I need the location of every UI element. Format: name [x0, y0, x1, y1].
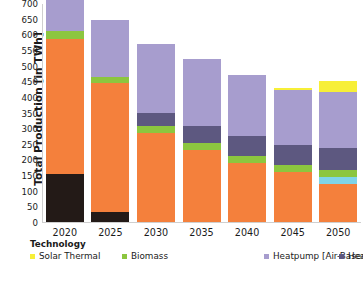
y-axis-tick-label: 50	[4, 202, 38, 212]
bar-segment[interactable]	[183, 126, 221, 143]
bar-segment[interactable]	[228, 156, 266, 163]
stacked-bar[interactable]	[91, 20, 129, 222]
bar-segment[interactable]	[91, 77, 129, 84]
legend-swatch-icon	[339, 254, 344, 259]
bar-segment[interactable]	[274, 172, 312, 222]
x-axis-tick-label: 2020	[53, 227, 77, 238]
legend-item[interactable]: Solar Thermal	[30, 252, 122, 261]
y-axis-tick-label: 450	[4, 77, 38, 87]
bar-segment[interactable]	[46, 0, 84, 31]
y-axis-tick-label: 500	[4, 62, 38, 72]
bar-segment[interactable]	[228, 136, 266, 155]
bar-segment[interactable]	[319, 184, 357, 222]
legend-swatch-icon	[264, 254, 269, 259]
legend-swatch-icon	[122, 254, 127, 259]
bar-segment[interactable]	[228, 75, 266, 136]
y-axis-tick-label: 300	[4, 124, 38, 134]
bar-segment[interactable]	[137, 113, 175, 126]
legend-item-label: Solar Thermal	[39, 252, 100, 261]
y-axis-tick-label: 600	[4, 30, 38, 40]
bar-segment[interactable]	[46, 31, 84, 39]
bar-segment[interactable]	[91, 20, 129, 76]
bar-segment[interactable]	[319, 92, 357, 148]
x-axis-tick-label: 2045	[280, 227, 304, 238]
bar-segment[interactable]	[319, 170, 357, 177]
x-axis-tick-label: 2050	[326, 227, 350, 238]
y-axis-tick-label: 700	[4, 0, 38, 9]
y-axis-tick-label: 250	[4, 140, 38, 150]
x-axis-line	[42, 222, 361, 223]
bar-segment[interactable]	[137, 126, 175, 133]
x-axis-tick-label: 2030	[144, 227, 168, 238]
y-axis-tick-label: 100	[4, 187, 38, 197]
y-axis-line	[42, 4, 43, 223]
legend-item[interactable]: Biomass	[122, 252, 264, 261]
bar-segment[interactable]	[319, 81, 357, 92]
legend-item[interactable]: Heatpump [Ground-Based]	[339, 252, 363, 261]
bar-segment[interactable]	[91, 83, 129, 211]
stacked-bar[interactable]	[183, 59, 221, 222]
stacked-bar[interactable]	[319, 81, 357, 222]
y-axis-tick-label: 150	[4, 171, 38, 181]
legend-item-label: Biomass	[131, 252, 168, 261]
bar-segment[interactable]	[274, 165, 312, 172]
bar-segment[interactable]	[274, 145, 312, 165]
stacked-bar[interactable]	[46, 0, 84, 222]
legend-item[interactable]: Heatpump [Air-Based]	[264, 252, 339, 261]
chart-figure: Total Production [in TWh] 05010015020025…	[0, 0, 363, 282]
legend-items: Solar ThermalBiomassHeatpump [Air-Based]…	[30, 251, 363, 262]
bar-segment[interactable]	[91, 212, 129, 222]
y-axis-tick-label: 200	[4, 155, 38, 165]
stacked-bar[interactable]	[274, 88, 312, 223]
legend-swatch-icon	[30, 254, 35, 259]
legend-item-label: Heatpump [Ground-Based]	[348, 252, 363, 261]
y-axis-tick-label: 0	[4, 218, 38, 228]
y-axis-tick-label: 400	[4, 93, 38, 103]
bar-segment[interactable]	[228, 163, 266, 222]
legend: Technology Solar ThermalBiomassHeatpump …	[30, 239, 363, 262]
bar-segment[interactable]	[183, 150, 221, 222]
y-axis-tick-label: 350	[4, 109, 38, 119]
x-axis-tick-label: 2025	[98, 227, 122, 238]
stacked-bar[interactable]	[228, 75, 266, 222]
bar-segment[interactable]	[183, 59, 221, 126]
bar-segment[interactable]	[137, 44, 175, 114]
bar-segment[interactable]	[319, 148, 357, 170]
x-axis-tick-label: 2035	[189, 227, 213, 238]
y-axis-tick-label: 550	[4, 46, 38, 56]
bar-segment[interactable]	[137, 133, 175, 222]
x-axis-tick-label: 2040	[235, 227, 259, 238]
bar-segment[interactable]	[46, 174, 84, 222]
legend-title: Technology	[30, 239, 363, 249]
plot-area: 0501001502002503003504004505005506006507…	[42, 4, 361, 223]
bar-segment[interactable]	[46, 39, 84, 174]
bar-segment[interactable]	[319, 177, 357, 185]
bar-segment[interactable]	[183, 143, 221, 150]
bar-segment[interactable]	[274, 90, 312, 145]
y-axis-tick-label: 650	[4, 15, 38, 25]
stacked-bar[interactable]	[137, 44, 175, 222]
